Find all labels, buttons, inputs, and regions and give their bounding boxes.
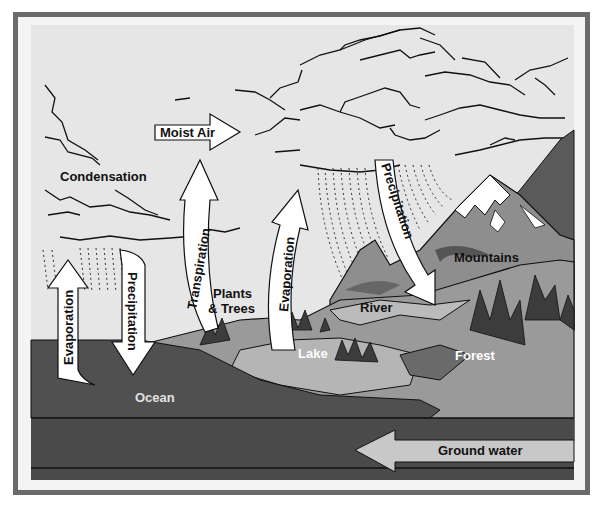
ground-water-label: Ground water: [438, 443, 523, 458]
trees-label: & Trees: [208, 301, 255, 316]
mountains-label: Mountains: [454, 250, 519, 265]
lake-label: Lake: [298, 346, 328, 361]
precipitation-ocean-label: Precipitation: [125, 272, 140, 351]
condensation-label: Condensation: [60, 169, 147, 184]
forest-label: Forest: [455, 348, 495, 363]
evaporation-ocean-label: Evaporation: [61, 290, 76, 365]
water-cycle-diagram: Moist Air Condensation Transpiration Eva…: [0, 0, 601, 506]
river-label: River: [360, 300, 393, 315]
plants-label: Plants: [213, 286, 252, 301]
ocean-label: Ocean: [135, 390, 175, 405]
moist-air-label: Moist Air: [160, 125, 215, 140]
